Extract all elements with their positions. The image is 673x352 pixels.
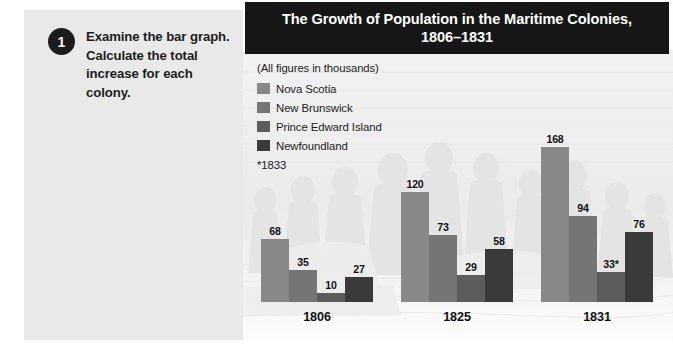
bar-new-brunswick-1806[interactable]: 35 bbox=[289, 52, 317, 302]
bar-prince-edward-island-1806[interactable]: 10 bbox=[317, 52, 345, 302]
task-instruction-text: Examine the bar graph. Calculate the tot… bbox=[86, 28, 236, 103]
bar-rect[interactable] bbox=[429, 235, 457, 302]
bar-rect[interactable] bbox=[485, 249, 513, 302]
bar-newfoundland-1825[interactable]: 58 bbox=[485, 52, 513, 302]
bar-prince-edward-island-1831[interactable]: 33* bbox=[597, 52, 625, 302]
bar-rect[interactable] bbox=[401, 192, 429, 302]
bar-new-brunswick-1825[interactable]: 73 bbox=[429, 52, 457, 302]
bar-value-label: 35 bbox=[297, 256, 308, 268]
bar-value-label: 33* bbox=[603, 258, 618, 270]
bar-value-label: 58 bbox=[493, 235, 504, 247]
bar-rect[interactable] bbox=[317, 293, 345, 302]
instruction-panel: 1 Examine the bar graph. Calculate the t… bbox=[24, 10, 243, 340]
bar-value-label: 168 bbox=[546, 133, 563, 145]
bar-chart-plot: 68351027180612073295818251689433*761831 bbox=[243, 0, 673, 340]
bar-nova-scotia-1831[interactable]: 168 bbox=[541, 52, 569, 302]
bar-newfoundland-1831[interactable]: 76 bbox=[625, 52, 653, 302]
bar-rect[interactable] bbox=[569, 216, 597, 302]
bar-group-bars: 68351027 bbox=[261, 52, 373, 302]
bar-rect[interactable] bbox=[289, 270, 317, 302]
task-number-badge: 1 bbox=[48, 28, 75, 55]
bar-group-bars: 120732958 bbox=[401, 52, 513, 302]
bar-prince-edward-island-1825[interactable]: 29 bbox=[457, 52, 485, 302]
bar-rect[interactable] bbox=[597, 272, 625, 302]
x-axis-label-1806: 1806 bbox=[261, 310, 373, 324]
x-axis-label-1831: 1831 bbox=[541, 310, 653, 324]
chart-panel: The Growth of Population in the Maritime… bbox=[243, 0, 673, 340]
bar-value-label: 10 bbox=[325, 279, 336, 291]
bar-rect[interactable] bbox=[345, 277, 373, 302]
bar-nova-scotia-1806[interactable]: 68 bbox=[261, 52, 289, 302]
bar-rect[interactable] bbox=[261, 239, 289, 302]
bar-rect[interactable] bbox=[625, 232, 653, 302]
bar-rect[interactable] bbox=[457, 275, 485, 302]
bar-newfoundland-1806[interactable]: 27 bbox=[345, 52, 373, 302]
bar-value-label: 73 bbox=[437, 221, 448, 233]
bar-value-label: 27 bbox=[353, 263, 364, 275]
bar-value-label: 29 bbox=[465, 261, 476, 273]
bar-rect[interactable] bbox=[541, 147, 569, 302]
bar-new-brunswick-1831[interactable]: 94 bbox=[569, 52, 597, 302]
bar-group-bars: 1689433*76 bbox=[541, 52, 653, 302]
x-axis-label-1825: 1825 bbox=[401, 310, 513, 324]
bar-value-label: 68 bbox=[269, 225, 280, 237]
bar-value-label: 94 bbox=[577, 202, 588, 214]
bar-value-label: 76 bbox=[633, 218, 644, 230]
bar-nova-scotia-1825[interactable]: 120 bbox=[401, 52, 429, 302]
bar-value-label: 120 bbox=[406, 178, 423, 190]
